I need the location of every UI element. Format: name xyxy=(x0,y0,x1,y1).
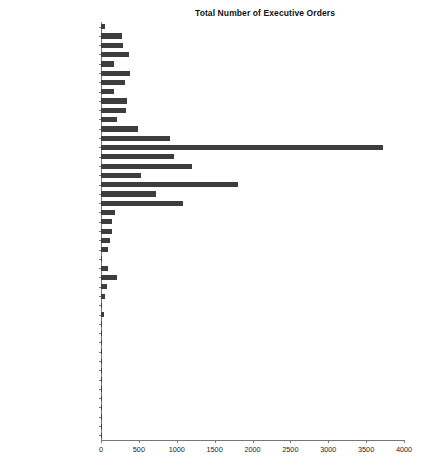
x-axis-tick-label: 0 xyxy=(81,445,121,454)
bar-row xyxy=(101,106,404,115)
bar-row xyxy=(101,152,404,161)
bar-row xyxy=(101,198,404,207)
bar xyxy=(101,377,102,382)
bar xyxy=(101,312,104,317)
bar xyxy=(101,33,122,38)
bar-row xyxy=(101,254,404,263)
bar xyxy=(101,61,114,66)
bar xyxy=(101,414,102,419)
bar-row xyxy=(101,115,404,124)
plot-area xyxy=(101,22,404,440)
bar xyxy=(101,247,108,252)
bar-row xyxy=(101,226,404,235)
bar-row xyxy=(101,273,404,282)
bar-row xyxy=(101,124,404,133)
x-axis-tick xyxy=(404,440,405,443)
bar-row xyxy=(101,208,404,217)
bar xyxy=(101,303,102,308)
bar xyxy=(101,80,125,85)
bar xyxy=(101,173,141,178)
bar xyxy=(101,182,238,187)
bar-row xyxy=(101,217,404,226)
bar-row xyxy=(101,96,404,105)
x-axis-tick-label: 3500 xyxy=(346,445,386,454)
bar-row xyxy=(101,78,404,87)
bar xyxy=(101,164,192,169)
bar-row xyxy=(101,412,404,421)
bar xyxy=(101,201,183,206)
bar-row xyxy=(101,264,404,273)
bar xyxy=(101,145,383,150)
x-axis-tick-label: 500 xyxy=(119,445,159,454)
bar xyxy=(101,238,110,243)
bar-row xyxy=(101,282,404,291)
bar xyxy=(101,284,107,289)
bar-row xyxy=(101,161,404,170)
bar-row xyxy=(101,133,404,142)
bar-row xyxy=(101,171,404,180)
x-axis-tick-label: 3000 xyxy=(308,445,348,454)
x-axis-tick-label: 2500 xyxy=(270,445,310,454)
bar-row xyxy=(101,50,404,59)
bar xyxy=(101,191,156,196)
bar-row xyxy=(101,338,404,347)
bar xyxy=(101,349,102,354)
bar xyxy=(101,229,112,234)
x-axis-tick xyxy=(177,440,178,443)
bar-row xyxy=(101,180,404,189)
bar-row xyxy=(101,329,404,338)
bar xyxy=(101,331,102,336)
bar xyxy=(101,52,129,57)
bar-row xyxy=(101,431,404,440)
bar xyxy=(101,108,126,113)
bar xyxy=(101,294,105,299)
bar xyxy=(101,424,102,429)
bar xyxy=(101,256,102,261)
bar xyxy=(101,126,138,131)
bar xyxy=(101,275,117,280)
bar-row xyxy=(101,356,404,365)
bar xyxy=(101,433,102,438)
bar-row xyxy=(101,421,404,430)
bar xyxy=(101,396,102,401)
bar xyxy=(101,386,102,391)
bar xyxy=(101,266,108,271)
bar-row xyxy=(101,31,404,40)
bar-row xyxy=(101,366,404,375)
bar-row xyxy=(101,189,404,198)
bar xyxy=(101,154,174,159)
bar-row xyxy=(101,143,404,152)
bar-row xyxy=(101,301,404,310)
executive-orders-bar-chart: Total Number of Executive Orders Donald … xyxy=(0,0,428,467)
bar-row xyxy=(101,236,404,245)
chart-title: Total Number of Executive Orders xyxy=(140,8,390,18)
x-axis-tick xyxy=(253,440,254,443)
bar xyxy=(101,210,115,215)
bar-row xyxy=(101,22,404,31)
bar xyxy=(101,98,127,103)
bar xyxy=(101,340,102,345)
x-axis-tick-label: 4000 xyxy=(384,445,424,454)
x-axis-tick xyxy=(328,440,329,443)
bar xyxy=(101,136,170,141)
bar xyxy=(101,405,102,410)
bar-row xyxy=(101,291,404,300)
bar-row xyxy=(101,384,404,393)
bar xyxy=(101,117,117,122)
bar-row xyxy=(101,375,404,384)
x-axis-tick xyxy=(101,440,102,443)
bar xyxy=(101,43,123,48)
bar-row xyxy=(101,319,404,328)
bar xyxy=(101,368,102,373)
bar xyxy=(101,359,102,364)
x-axis-tick xyxy=(366,440,367,443)
bar-row xyxy=(101,87,404,96)
bar xyxy=(101,219,112,224)
bar-row xyxy=(101,59,404,68)
bar-row xyxy=(101,347,404,356)
x-axis-tick-label: 1500 xyxy=(195,445,235,454)
x-axis-tick xyxy=(215,440,216,443)
bar-row xyxy=(101,310,404,319)
x-axis-tick xyxy=(139,440,140,443)
bar-row xyxy=(101,403,404,412)
